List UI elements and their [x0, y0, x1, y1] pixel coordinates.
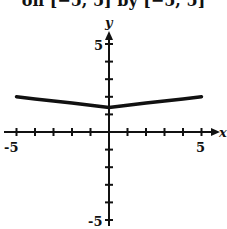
y-tick-label-max: 5 — [94, 38, 103, 53]
y-axis-label: y — [104, 15, 114, 30]
x-tick-label-max: 5 — [196, 140, 205, 155]
x-axis-label: x — [218, 125, 227, 140]
x-tick-label-min: -5 — [4, 140, 18, 155]
y-tick-label-min: -5 — [88, 214, 102, 229]
plot: -5 5 5 -5 x y — [0, 0, 227, 229]
y-axis-arrow-icon — [105, 31, 113, 40]
